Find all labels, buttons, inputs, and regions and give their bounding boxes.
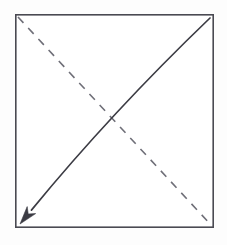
diagram-svg: [0, 0, 227, 245]
figure-canvas: [0, 0, 227, 245]
